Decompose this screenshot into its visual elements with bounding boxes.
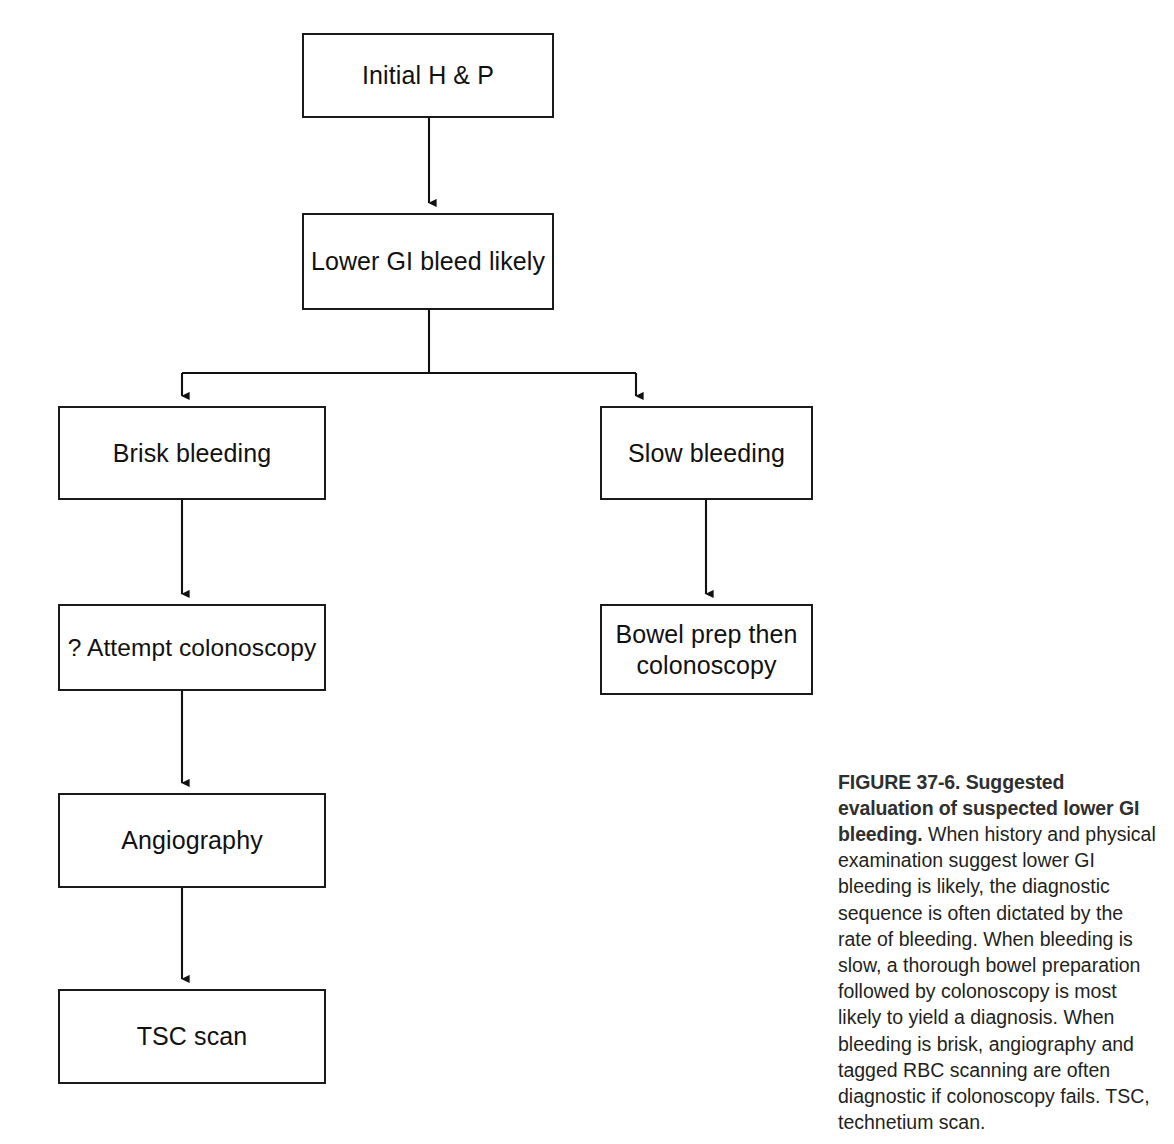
flow-node-label: Lower GI bleed likely	[311, 246, 545, 277]
flow-node-label: Bowel prep then colonoscopy	[615, 619, 797, 680]
flow-node-tsc-scan: TSC scan	[58, 989, 326, 1084]
figure-container: Initial H & P Lower GI bleed likely Bris…	[0, 0, 1174, 1144]
flow-node-lower-gi-bleed-likely: Lower GI bleed likely	[302, 213, 554, 310]
flow-node-slow-bleeding: Slow bleeding	[600, 406, 813, 500]
flow-node-label: ? Attempt colonoscopy	[68, 633, 317, 663]
flow-node-label: Slow bleeding	[628, 438, 785, 469]
flow-node-label: Initial H & P	[362, 60, 494, 91]
flow-node-label: Brisk bleeding	[113, 438, 271, 469]
flow-node-bowel-prep-colonoscopy: Bowel prep then colonoscopy	[600, 604, 813, 695]
figure-caption: FIGURE 37-6. Suggested evaluation of sus…	[838, 769, 1162, 1136]
figure-caption-body: When history and physical examination su…	[838, 823, 1156, 1133]
flow-node-attempt-colonoscopy: ? Attempt colonoscopy	[58, 604, 326, 691]
flow-node-label: TSC scan	[137, 1021, 248, 1052]
flow-node-angiography: Angiography	[58, 793, 326, 888]
flow-node-brisk-bleeding: Brisk bleeding	[58, 406, 326, 500]
flow-node-label: Angiography	[121, 825, 262, 856]
flow-node-initial-hp: Initial H & P	[302, 33, 554, 118]
